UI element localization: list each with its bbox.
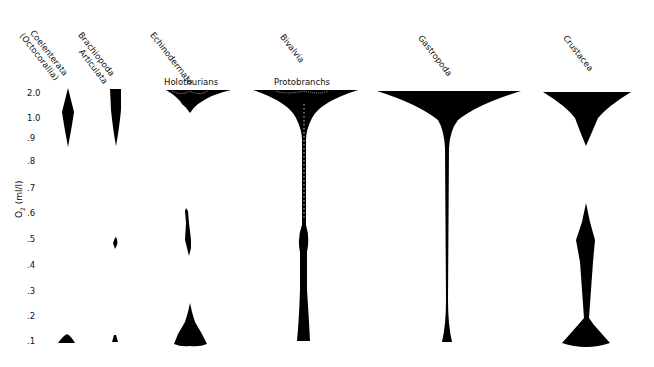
crustacea-shape [543, 92, 631, 347]
brachiopoda-shape [110, 89, 121, 342]
distribution-shapes [0, 0, 654, 367]
bivalvia-shape [253, 90, 358, 341]
gastropoda-shape [377, 91, 521, 342]
coelenterata-shape [58, 88, 75, 343]
echinodermata-shape [166, 90, 231, 346]
oxygen-diversity-diagram: O2 (ml/l) 2.0 1.0 .9 .8 .7 .6 .5 .4 .3 .… [0, 0, 654, 367]
